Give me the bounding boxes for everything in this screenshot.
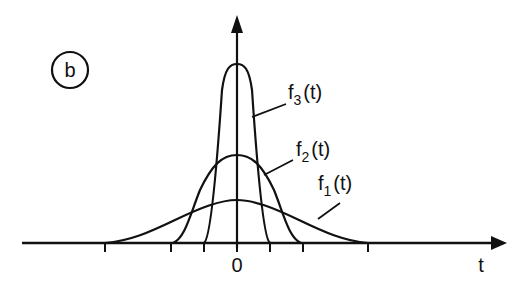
label-f1: f1(t) bbox=[318, 172, 352, 199]
diagram-canvas: b f3(t) f2(t) bbox=[0, 0, 530, 294]
label-f3: f3(t) bbox=[288, 81, 322, 108]
t-axis bbox=[22, 236, 507, 252]
f-axis bbox=[231, 15, 243, 248]
svg-text:f2(t): f2(t) bbox=[296, 138, 330, 165]
panel-label-text: b bbox=[64, 59, 75, 81]
t-axis-arrow-icon bbox=[491, 236, 507, 250]
t-axis-label: t bbox=[478, 254, 484, 276]
label-f2: f2(t) bbox=[296, 138, 330, 165]
svg-text:f3(t): f3(t) bbox=[288, 81, 322, 108]
leader-f3 bbox=[252, 104, 286, 117]
svg-text:f1(t): f1(t) bbox=[318, 172, 352, 199]
leader-f1 bbox=[318, 203, 340, 219]
leader-f2 bbox=[264, 160, 293, 175]
f-axis-arrow-icon bbox=[231, 15, 243, 33]
panel-label: b bbox=[52, 52, 88, 88]
origin-label: 0 bbox=[231, 254, 242, 276]
